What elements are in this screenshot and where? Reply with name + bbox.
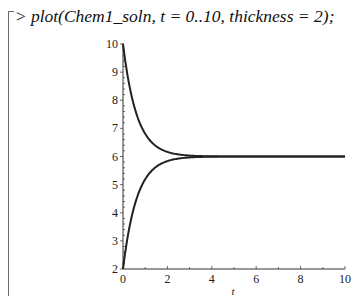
x-tick-label: 2 [164, 272, 170, 286]
y-tick-label: 9 [112, 65, 118, 79]
plot-output[interactable]: 23456789100246810t [0, 0, 359, 301]
y-tick-label: 7 [112, 121, 118, 135]
y-tick-label: 5 [112, 178, 118, 192]
x-tick-label: 0 [120, 272, 126, 286]
y-tick-label: 3 [112, 234, 118, 248]
y-tick-label: 2 [112, 262, 118, 276]
y-tick-label: 6 [112, 150, 118, 164]
x-axis-label: t [231, 285, 235, 297]
x-tick-label: 8 [298, 272, 304, 286]
x-tick-label: 4 [209, 272, 215, 286]
y-tick-label: 8 [112, 93, 118, 107]
y-tick-label: 10 [106, 37, 118, 51]
decay-curve [123, 44, 345, 157]
x-tick-label: 10 [339, 272, 351, 286]
x-tick-label: 6 [253, 272, 259, 286]
y-tick-label: 4 [112, 206, 118, 220]
growth-curve [123, 157, 345, 270]
